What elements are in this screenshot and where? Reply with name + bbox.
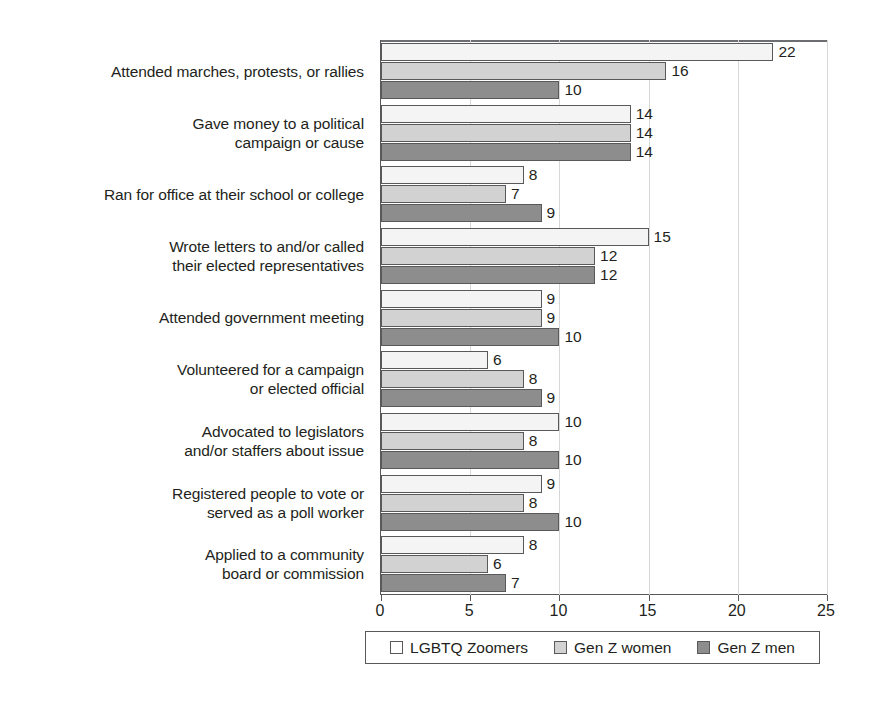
bar <box>381 81 559 99</box>
bar-value-label: 9 <box>547 204 556 222</box>
bar-value-label: 10 <box>564 451 581 469</box>
bar <box>381 62 666 80</box>
bar <box>381 247 595 265</box>
x-tick-label: 0 <box>376 601 385 621</box>
bar <box>381 432 524 450</box>
bar-value-label: 10 <box>564 413 581 431</box>
category-label-line: Applied to a community <box>4 545 364 564</box>
category-label-line: Advocated to legislators <box>4 422 364 441</box>
category-label: Ran for office at their school or colleg… <box>4 185 364 204</box>
category-label: Applied to a communityboard or commissio… <box>4 545 364 583</box>
bar <box>381 309 542 327</box>
category-label-line: Volunteered for a campaign <box>4 360 364 379</box>
bar <box>381 185 506 203</box>
x-tick-label: 15 <box>639 601 657 621</box>
light-gray-swatch <box>554 641 567 654</box>
plot-top-rule <box>381 40 827 42</box>
bar-value-label: 16 <box>671 62 688 80</box>
bar <box>381 266 595 284</box>
bar-value-label: 12 <box>600 266 617 284</box>
legend-item[interactable]: Gen Z men <box>697 639 795 657</box>
category-label-line: Attended government meeting <box>4 308 364 327</box>
bar <box>381 451 559 469</box>
category-label: Advocated to legislatorsand/or staffers … <box>4 422 364 460</box>
bar <box>381 494 524 512</box>
chart-legend: LGBTQ ZoomersGen Z womenGen Z men <box>365 631 820 664</box>
bar-value-label: 14 <box>636 124 653 142</box>
bar-value-label: 14 <box>636 105 653 123</box>
bar-value-label: 12 <box>600 247 617 265</box>
bar-value-label: 8 <box>529 166 538 184</box>
bar <box>381 536 524 554</box>
category-label-line: Gave money to a political <box>4 114 364 133</box>
bar <box>381 228 649 246</box>
bar-value-label: 8 <box>529 494 538 512</box>
category-label-line: board or commission <box>4 564 364 583</box>
bar <box>381 143 631 161</box>
category-label-line: served as a poll worker <box>4 503 364 522</box>
bar <box>381 574 506 592</box>
plot-area: 2216101414148791512129910689108109810867 <box>380 40 827 595</box>
bar <box>381 204 542 222</box>
bar-value-label: 9 <box>547 309 556 327</box>
bar <box>381 513 559 531</box>
bar-value-label: 6 <box>493 351 502 369</box>
x-axis-tick-labels: 0510152025 <box>380 601 826 623</box>
bar-value-label: 22 <box>778 43 795 61</box>
category-label: Registered people to vote orserved as a … <box>4 484 364 522</box>
grouped-bar-chart: Attended marches, protests, or ralliesGa… <box>0 0 875 703</box>
bar-value-label: 8 <box>529 432 538 450</box>
bar <box>381 166 524 184</box>
legend-label: Gen Z men <box>717 639 795 657</box>
category-label-line: or elected official <box>4 379 364 398</box>
bar <box>381 389 542 407</box>
bar-value-label: 6 <box>493 555 502 573</box>
category-label: Volunteered for a campaignor elected off… <box>4 360 364 398</box>
bar-value-label: 9 <box>547 475 556 493</box>
bar-value-label: 8 <box>529 370 538 388</box>
bar <box>381 370 524 388</box>
bar <box>381 43 773 61</box>
x-tick-label: 20 <box>728 601 746 621</box>
legend-item[interactable]: Gen Z women <box>554 639 671 657</box>
bar <box>381 413 559 431</box>
bar-value-label: 15 <box>654 228 671 246</box>
bar-value-label: 10 <box>564 513 581 531</box>
bar-value-label: 7 <box>511 185 520 203</box>
bar <box>381 475 542 493</box>
bar <box>381 555 488 573</box>
dark-gray-swatch <box>697 641 710 654</box>
x-axis-line <box>381 594 827 596</box>
bar-value-label: 7 <box>511 574 520 592</box>
legend-label: Gen Z women <box>574 639 671 657</box>
category-label-line: Wrote letters to and/or called <box>4 237 364 256</box>
bar-value-label: 9 <box>547 290 556 308</box>
category-label-line: and/or staffers about issue <box>4 441 364 460</box>
category-label: Attended marches, protests, or rallies <box>4 62 364 81</box>
bar <box>381 328 559 346</box>
category-label: Wrote letters to and/or calledtheir elec… <box>4 237 364 275</box>
bar-value-label: 8 <box>529 536 538 554</box>
white-swatch <box>390 641 403 654</box>
bar-value-label: 10 <box>564 328 581 346</box>
category-label-line: Attended marches, protests, or rallies <box>4 62 364 81</box>
gridline-25 <box>827 40 828 595</box>
x-tick-label: 25 <box>817 601 835 621</box>
bar-value-label: 9 <box>547 389 556 407</box>
x-tick-label: 5 <box>465 601 474 621</box>
bar <box>381 290 542 308</box>
gridline-20 <box>738 40 739 595</box>
x-tick-label: 10 <box>549 601 567 621</box>
category-label-line: Registered people to vote or <box>4 484 364 503</box>
legend-item[interactable]: LGBTQ Zoomers <box>390 639 528 657</box>
category-label: Attended government meeting <box>4 308 364 327</box>
category-label-line: campaign or cause <box>4 133 364 152</box>
category-axis-labels: Attended marches, protests, or ralliesGa… <box>0 40 372 595</box>
bar <box>381 351 488 369</box>
legend-label: LGBTQ Zoomers <box>410 639 528 657</box>
bar <box>381 124 631 142</box>
bar-value-label: 14 <box>636 143 653 161</box>
category-label: Gave money to a politicalcampaign or cau… <box>4 114 364 152</box>
bar <box>381 105 631 123</box>
category-label-line: Ran for office at their school or colleg… <box>4 185 364 204</box>
